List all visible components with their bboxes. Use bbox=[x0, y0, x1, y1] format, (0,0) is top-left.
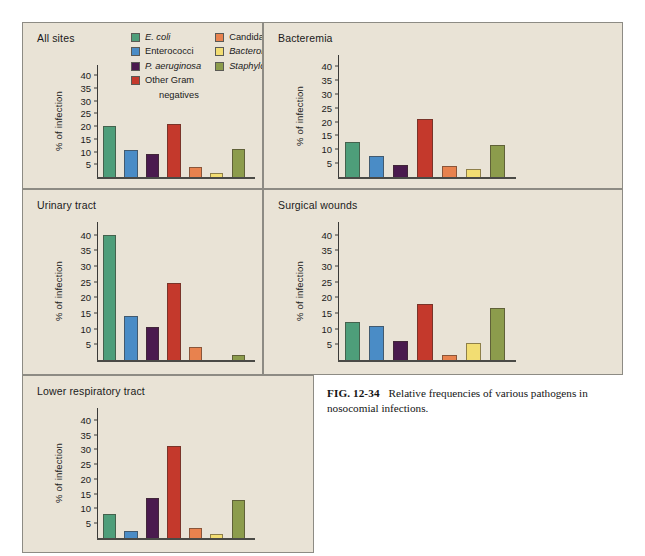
figure-caption: FIG. 12-34Relative frequencies of variou… bbox=[327, 386, 627, 416]
bar-slot bbox=[185, 408, 206, 538]
bar[interactable] bbox=[124, 150, 137, 177]
y-axis-tick-label: 25 bbox=[80, 459, 91, 470]
bar[interactable] bbox=[189, 167, 202, 177]
y-axis-tick-label: 15 bbox=[321, 307, 332, 318]
bar[interactable] bbox=[210, 173, 223, 177]
bar-slot bbox=[206, 65, 227, 177]
bar[interactable] bbox=[167, 124, 180, 177]
y-axis-tick-label: 25 bbox=[80, 108, 91, 119]
bar-slot bbox=[185, 222, 206, 360]
bar[interactable] bbox=[417, 119, 432, 177]
panel-title-bacteremia: Bacteremia bbox=[278, 32, 333, 44]
bar[interactable] bbox=[442, 355, 457, 360]
y-axis-tick-label: 40 bbox=[80, 414, 91, 425]
bar[interactable] bbox=[210, 534, 223, 538]
y-axis-tick-label: 20 bbox=[80, 473, 91, 484]
y-axis-ticks: 510152025303540 bbox=[67, 222, 97, 360]
y-axis-ticks: 510152025303540 bbox=[308, 55, 338, 177]
y-axis-tick-label: 35 bbox=[321, 74, 332, 85]
panel-surgical-wounds: Surgical wounds % of infection5101520253… bbox=[263, 189, 623, 375]
legend-label-candida: Candida bbox=[229, 33, 263, 42]
y-axis-tick-label: 30 bbox=[321, 88, 332, 99]
legend-swatch-bacteroides bbox=[215, 47, 224, 56]
bar[interactable] bbox=[124, 531, 137, 538]
bar-slot bbox=[486, 55, 510, 177]
bar-slot bbox=[413, 222, 437, 360]
bar[interactable] bbox=[466, 169, 481, 177]
panel-title-lower-respiratory-tract: Lower respiratory tract bbox=[37, 385, 145, 397]
bar-slot bbox=[206, 408, 227, 538]
y-axis-tick-label: 5 bbox=[86, 159, 91, 170]
y-axis-tick-label: 30 bbox=[80, 260, 91, 271]
y-axis-ticks: 510152025303540 bbox=[308, 222, 338, 360]
bar[interactable] bbox=[490, 145, 505, 177]
y-axis-tick-label: 25 bbox=[321, 276, 332, 287]
bar[interactable] bbox=[345, 142, 360, 177]
bar[interactable] bbox=[146, 327, 159, 360]
bar[interactable] bbox=[393, 341, 408, 360]
y-axis-tick-label: 35 bbox=[80, 82, 91, 93]
y-axis-label: % of infection bbox=[53, 261, 64, 321]
bar[interactable] bbox=[146, 498, 159, 538]
y-axis-tick-label: 35 bbox=[321, 245, 332, 256]
bar[interactable] bbox=[345, 322, 360, 360]
bar[interactable] bbox=[490, 308, 505, 360]
bar-slot bbox=[228, 408, 249, 538]
y-axis-tick-label: 10 bbox=[80, 323, 91, 334]
bar[interactable] bbox=[417, 304, 432, 360]
y-axis-tick-label: 5 bbox=[327, 158, 332, 169]
bar-group bbox=[340, 222, 510, 360]
bar[interactable] bbox=[103, 514, 116, 538]
bar[interactable] bbox=[369, 156, 384, 177]
bar-slot bbox=[206, 222, 227, 360]
y-axis-tick-label: 25 bbox=[80, 276, 91, 287]
bar-slot bbox=[364, 222, 388, 360]
y-axis-tick-label: 5 bbox=[86, 339, 91, 350]
bar[interactable] bbox=[393, 165, 408, 177]
bar[interactable] bbox=[189, 528, 202, 538]
bar-slot bbox=[185, 65, 206, 177]
y-axis-ticks: 510152025303540 bbox=[67, 65, 97, 177]
legend-item-bacteroides: Bacteroides bbox=[215, 45, 263, 60]
bar-slot bbox=[99, 408, 120, 538]
bar-slot bbox=[461, 222, 485, 360]
bar-slot bbox=[340, 222, 364, 360]
x-axis-line bbox=[97, 177, 255, 179]
y-axis-tick-label: 15 bbox=[80, 133, 91, 144]
y-axis-line bbox=[97, 408, 98, 538]
bar[interactable] bbox=[232, 149, 245, 177]
bar[interactable] bbox=[369, 326, 384, 361]
bar-slot bbox=[120, 222, 141, 360]
bar-group bbox=[99, 65, 249, 177]
y-axis-tick-label: 30 bbox=[80, 444, 91, 455]
bar-slot bbox=[228, 65, 249, 177]
bar[interactable] bbox=[232, 355, 245, 360]
legend-label-enterococci: Enterococci bbox=[145, 47, 194, 56]
bar-slot bbox=[413, 55, 437, 177]
bar-slot bbox=[364, 55, 388, 177]
bar[interactable] bbox=[232, 500, 245, 538]
bar[interactable] bbox=[103, 235, 116, 360]
bar-group bbox=[99, 222, 249, 360]
legend-item-enterococci: Enterococci bbox=[131, 45, 201, 60]
panel-title-all-sites: All sites bbox=[37, 32, 75, 44]
plot-lower-respiratory-tract: % of infection510152025303540 bbox=[53, 408, 251, 538]
legend-label-e-coli: E. coli bbox=[145, 33, 170, 42]
plot-all-sites: % of infection510152025303540 bbox=[53, 65, 251, 177]
bar[interactable] bbox=[167, 446, 180, 538]
legend-item-e-coli: E. coli bbox=[131, 30, 201, 45]
y-axis-tick-label: 15 bbox=[321, 130, 332, 141]
bar[interactable] bbox=[442, 166, 457, 177]
bar[interactable] bbox=[124, 316, 137, 360]
bar[interactable] bbox=[103, 126, 116, 177]
bar[interactable] bbox=[189, 347, 202, 360]
bar-slot bbox=[461, 55, 485, 177]
bar[interactable] bbox=[146, 154, 159, 177]
y-axis-label: % of infection bbox=[53, 443, 64, 503]
bar[interactable] bbox=[466, 343, 481, 360]
bar[interactable] bbox=[167, 283, 180, 360]
legend-item-candida: Candida bbox=[215, 30, 263, 45]
y-axis-line bbox=[97, 65, 98, 177]
bar-slot bbox=[340, 55, 364, 177]
y-axis-tick-label: 30 bbox=[321, 260, 332, 271]
